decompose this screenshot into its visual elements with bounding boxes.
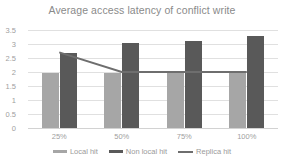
- line-series-path: [59, 52, 247, 72]
- x-axis-tick-label: 50%: [102, 132, 142, 141]
- y-axis-tick-label: 0.5: [0, 111, 16, 119]
- y-axis-tick-label: 3: [0, 41, 16, 49]
- legend-swatch: [109, 150, 123, 153]
- legend-item[interactable]: Replica hit: [178, 147, 231, 156]
- x-axis-tick-label: 75%: [164, 132, 204, 141]
- y-axis-tick-label: 0: [0, 125, 16, 133]
- y-axis-tick-label: 3.5: [0, 27, 16, 35]
- y-axis-tick-label: 1.5: [0, 83, 16, 91]
- legend-swatch: [178, 151, 193, 153]
- legend-label: Local hit: [70, 147, 98, 156]
- plot-area: 00.511.522.533.5: [28, 30, 278, 128]
- y-axis-tick-label: 2.5: [0, 55, 16, 63]
- legend-swatch: [53, 150, 67, 153]
- line-series-layer: [28, 30, 278, 128]
- legend-item[interactable]: Non local hit: [109, 147, 167, 156]
- chart-legend: Local hitNon local hitReplica hit: [0, 147, 284, 156]
- x-axis-tick-label: 25%: [39, 132, 79, 141]
- chart-title: Average access latency of conflict write: [0, 4, 284, 16]
- x-axis-tick-label: 100%: [227, 132, 267, 141]
- legend-label: Non local hit: [126, 147, 167, 156]
- legend-item[interactable]: Local hit: [53, 147, 98, 156]
- gridline: [28, 128, 278, 129]
- chart-container: Average access latency of conflict write…: [0, 0, 284, 164]
- y-axis-tick-label: 2: [0, 69, 16, 77]
- legend-label: Replica hit: [196, 147, 231, 156]
- y-axis-tick-label: 1: [0, 97, 16, 105]
